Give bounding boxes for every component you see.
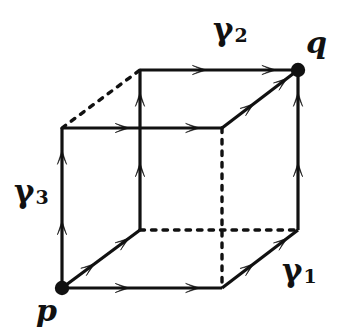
vertex-dot-q <box>291 63 305 77</box>
vertex-layer <box>55 63 305 295</box>
cube-diagram-figure: γ2 γ3 γ1 p q <box>0 0 344 336</box>
label-gamma-1: γ1 <box>282 255 317 286</box>
edge-layer <box>57 65 302 292</box>
label-vertex-q: q <box>306 28 327 58</box>
label-gamma-3: γ3 <box>14 176 49 207</box>
edge-front-top-left-to-back-top-left <box>62 70 140 128</box>
label-vertex-p: p <box>36 296 57 326</box>
label-gamma-2: γ2 <box>213 14 248 45</box>
